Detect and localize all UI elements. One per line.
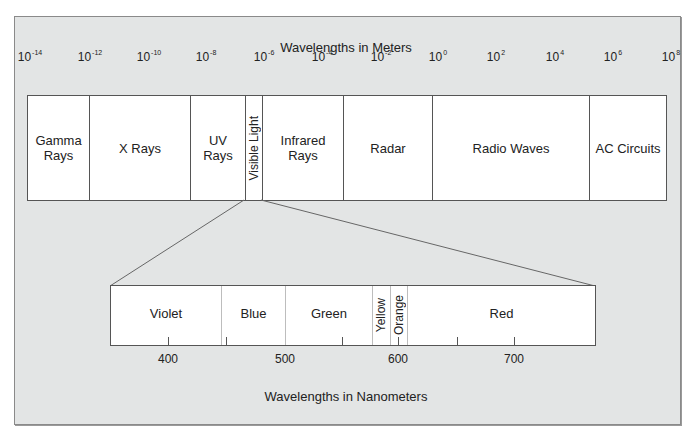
nm-label-400: 400 — [158, 352, 178, 366]
nm-tick — [398, 337, 399, 345]
nm-tick — [342, 337, 343, 345]
zoom-connector-lines — [0, 0, 692, 442]
nm-label-700: 700 — [504, 352, 524, 366]
visible-spectrum-band: Violet Blue Green Yellow Orange Red — [110, 285, 596, 346]
nm-label-600: 600 — [388, 352, 408, 366]
nm-label-500: 500 — [275, 352, 295, 366]
band-blue: Blue — [221, 286, 285, 345]
nm-tick — [226, 337, 227, 345]
band-green: Green — [285, 286, 372, 345]
nm-tick — [514, 337, 515, 345]
nm-tick — [457, 337, 458, 345]
nm-tick — [168, 337, 169, 345]
band-yellow: Yellow — [372, 286, 390, 345]
band-violet: Violet — [111, 286, 221, 345]
nanometers-axis-title: Wavelengths in Nanometers — [265, 389, 428, 404]
band-red: Red — [407, 286, 595, 345]
